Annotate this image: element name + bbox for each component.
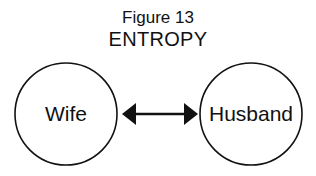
node-husband: Husband [200, 63, 302, 165]
arrow-head-right [184, 103, 198, 125]
bidirectional-arrow-icon [122, 103, 198, 125]
wife-label: Wife [45, 102, 87, 125]
arrow-head-left [122, 103, 136, 125]
entropy-diagram: Wife Husband [0, 0, 316, 176]
node-wife: Wife [15, 63, 117, 165]
husband-label: Husband [209, 102, 293, 125]
